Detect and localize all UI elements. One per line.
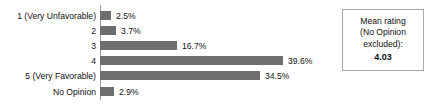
value-label-6: 2.9%: [119, 87, 139, 97]
chart-row-4: 4 39.6%: [0, 53, 330, 68]
category-label-4: 4: [0, 56, 100, 66]
bar-6: [100, 87, 114, 96]
value-label-4: 39.6%: [288, 56, 312, 66]
bar-3: [100, 41, 177, 50]
mean-rating-callout: Mean rating (No Opinion excluded): 4.03: [342, 9, 424, 71]
category-label-6: No Opinion: [0, 87, 100, 97]
bar-2: [100, 26, 116, 35]
bar-5: [100, 71, 260, 80]
category-label-5: 5 (Very Favorable): [0, 71, 100, 81]
mean-rating-line-2: (No Opinion: [360, 27, 406, 39]
bar-chart: 1 (Very Unfavorable) 2.5% 2 3.7% 3 16.7%…: [0, 0, 330, 112]
bar-4: [100, 56, 283, 65]
bar-zone-3: 16.7%: [100, 38, 330, 53]
category-label-3: 3: [0, 41, 100, 51]
bar-zone-1: 2.5%: [100, 8, 330, 23]
bar-zone-5: 34.5%: [100, 68, 330, 83]
chart-row-2: 2 3.7%: [0, 23, 330, 38]
value-label-2: 3.7%: [121, 26, 141, 36]
chart-row-3: 3 16.7%: [0, 38, 330, 53]
mean-rating-value: 4.03: [374, 51, 392, 64]
value-label-3: 16.7%: [182, 41, 206, 51]
chart-row-1: 1 (Very Unfavorable) 2.5%: [0, 8, 330, 23]
bar-zone-2: 3.7%: [100, 23, 330, 38]
chart-row-5: 5 (Very Favorable) 34.5%: [0, 68, 330, 83]
value-label-1: 2.5%: [116, 11, 136, 21]
mean-rating-line-1: Mean rating: [360, 16, 405, 28]
value-label-5: 34.5%: [265, 71, 289, 81]
bar-zone-6: 2.9%: [100, 84, 330, 99]
mean-rating-line-3: excluded):: [363, 39, 403, 51]
bar-1: [100, 11, 111, 20]
bar-zone-4: 39.6%: [100, 53, 330, 68]
category-label-2: 2: [0, 26, 100, 36]
category-label-1: 1 (Very Unfavorable): [0, 11, 100, 21]
chart-row-6: No Opinion 2.9%: [0, 84, 330, 99]
